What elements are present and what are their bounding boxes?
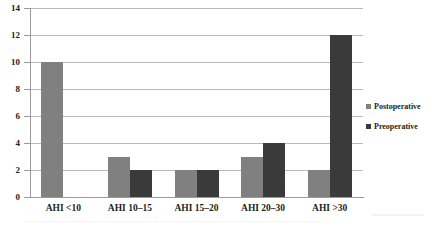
legend-label: Preoperative xyxy=(374,122,418,131)
chart-legend: PostoperativePreoperative xyxy=(366,96,433,136)
scan-artifact xyxy=(372,214,424,216)
bar-chart: 02468101214 AHI <10AHI 10–15AHI 15–20AHI… xyxy=(0,0,433,227)
y-axis-tick-label: 4 xyxy=(2,139,20,148)
x-axis-category-label: AHI 20–30 xyxy=(230,203,297,214)
bar-preoperative-1 xyxy=(130,170,152,197)
legend-swatch-icon xyxy=(366,104,371,109)
chart-bars xyxy=(30,8,363,197)
y-axis-tick-label: 6 xyxy=(2,112,20,121)
x-axis-category-label: AHI <10 xyxy=(30,203,97,214)
y-axis-tick-label: 2 xyxy=(2,166,20,175)
bar-preoperative-2 xyxy=(197,170,219,197)
bar-postoperative-3 xyxy=(241,157,263,198)
x-axis-category-label: AHI 15–20 xyxy=(163,203,230,214)
x-axis-category-label: AHI >30 xyxy=(296,203,363,214)
bar-preoperative-4 xyxy=(330,35,352,197)
bar-preoperative-3 xyxy=(263,143,285,197)
legend-item-postoperative[interactable]: Postoperative xyxy=(366,96,433,116)
y-axis-tick-label: 8 xyxy=(2,85,20,94)
y-axis-tick-label: 10 xyxy=(2,58,20,67)
bar-postoperative-2 xyxy=(175,170,197,197)
bar-postoperative-4 xyxy=(308,170,330,197)
bar-postoperative-1 xyxy=(108,157,130,198)
legend-swatch-icon xyxy=(366,124,371,129)
legend-item-preoperative[interactable]: Preoperative xyxy=(366,116,433,136)
legend-label: Postoperative xyxy=(374,102,421,111)
y-axis-tick-label: 14 xyxy=(2,4,20,13)
bar-postoperative-0 xyxy=(41,62,63,197)
scan-artifact xyxy=(24,221,324,222)
x-axis-line xyxy=(30,197,364,198)
y-axis-tick-label: 0 xyxy=(2,193,20,202)
x-axis-category-label: AHI 10–15 xyxy=(97,203,164,214)
y-axis-tick-label: 12 xyxy=(2,31,20,40)
